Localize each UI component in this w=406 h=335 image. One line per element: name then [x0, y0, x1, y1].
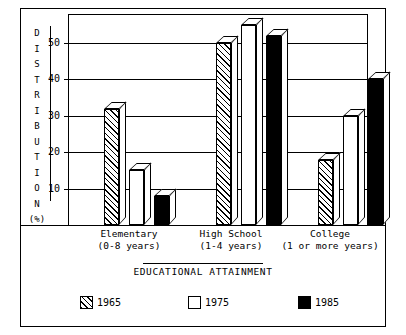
bar-side-face	[333, 152, 340, 225]
bar-front-face	[368, 79, 383, 225]
legend-swatch-hatch	[80, 296, 93, 309]
bar-front-face	[104, 109, 119, 225]
bar-front-face	[241, 25, 256, 225]
y-axis-title-char: I	[26, 166, 48, 182]
bar-1975-elementary	[129, 14, 151, 225]
category-label-college: College(1 or more years)	[270, 228, 390, 252]
y-tick-label: 20	[38, 146, 60, 157]
y-axis-title-char: S	[26, 57, 48, 73]
y-axis-title-char: (%)	[26, 212, 48, 228]
x-axis-title-rule	[143, 263, 263, 264]
bar-1985-college	[368, 14, 390, 225]
bar-side-face	[144, 163, 151, 225]
y-axis-title-char: N	[26, 197, 48, 213]
legend-item-1975[interactable]: 1975	[188, 296, 229, 309]
legend-item-1985[interactable]: 1985	[298, 296, 339, 309]
bar-1965-college	[318, 14, 340, 225]
bar-front-face	[216, 43, 231, 225]
legend-item-1965[interactable]: 1965	[80, 296, 121, 309]
y-tick-label: 50	[38, 37, 60, 48]
bar-1965-high-school	[216, 14, 238, 225]
y-axis-title: DISTRIBUTION(%)	[26, 26, 48, 228]
y-axis-title-char: R	[26, 88, 48, 104]
legend-label: 1985	[315, 297, 339, 308]
y-tick-label: 40	[38, 73, 60, 84]
plot-footer-divider	[20, 225, 386, 226]
bar-side-face	[358, 108, 365, 225]
legend-swatch-black	[298, 296, 311, 309]
y-tick-label: 30	[38, 110, 60, 121]
bar-side-face	[231, 35, 238, 225]
chart-legend: 196519751985	[20, 296, 386, 316]
bar-1985-high-school	[266, 14, 288, 225]
bar-1965-elementary	[104, 14, 126, 225]
bar-front-face	[318, 160, 333, 225]
bar-side-face	[256, 17, 263, 225]
bar-front-face	[129, 170, 144, 225]
legend-label: 1965	[97, 297, 121, 308]
bars-layer	[68, 14, 368, 225]
bar-side-face	[281, 28, 288, 225]
category-labels: Elementary(0-8 years)High School(1-4 yea…	[20, 228, 386, 254]
category-label-name: College	[270, 228, 390, 240]
bar-side-face	[383, 72, 390, 225]
bar-front-face	[154, 196, 169, 225]
y-axis-title-char: B	[26, 119, 48, 135]
bar-side-face	[119, 101, 126, 225]
legend-label: 1975	[205, 297, 229, 308]
bar-1985-elementary	[154, 14, 176, 225]
chart-figure: DISTRIBUTION(%) 1020304050 Elementary(0-…	[0, 0, 406, 335]
bar-1975-high-school	[241, 14, 263, 225]
category-label-range: (1 or more years)	[270, 240, 390, 252]
bar-front-face	[266, 36, 281, 225]
legend-swatch-white	[188, 296, 201, 309]
x-axis-title: EDUCATIONAL ATTAINMENT	[83, 266, 323, 277]
bar-front-face	[343, 116, 358, 225]
y-tick-label: 10	[38, 183, 60, 194]
bar-1975-college	[343, 14, 365, 225]
